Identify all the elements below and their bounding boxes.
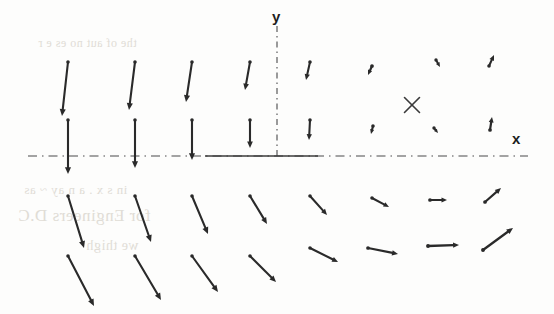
vector-arrow xyxy=(247,118,253,148)
axes-group xyxy=(28,26,528,156)
vector-arrow xyxy=(132,118,138,168)
x-axis-label: x xyxy=(512,130,521,147)
vector-arrow xyxy=(432,126,438,133)
saddle-point-cross xyxy=(405,98,420,113)
vector-field-figure: xy xyxy=(0,0,554,314)
vector-arrow xyxy=(434,58,440,67)
vector-arrow xyxy=(370,196,389,207)
vector-arrow xyxy=(248,254,276,282)
vector-arrow xyxy=(305,60,312,80)
vector-arrow xyxy=(66,194,85,248)
vector-arrow xyxy=(426,243,459,248)
vector-arrow xyxy=(487,55,494,68)
vector-arrow xyxy=(60,60,70,116)
vector-arrow xyxy=(66,254,94,306)
vector-arrow xyxy=(483,188,501,204)
vector-arrow xyxy=(243,60,251,90)
vector-arrow xyxy=(428,198,447,203)
vector-arrow xyxy=(190,194,208,234)
vector-arrow xyxy=(133,194,151,242)
vector-arrow xyxy=(127,60,137,110)
vector-arrow xyxy=(133,254,161,300)
y-axis-label: y xyxy=(272,8,281,25)
figure-page: the of aut no es e r in s x . a n ay ~ a… xyxy=(0,0,554,314)
vector-arrow xyxy=(307,118,312,140)
vector-arrow xyxy=(368,64,374,75)
vector-arrow xyxy=(488,117,493,132)
vector-arrow xyxy=(190,254,218,292)
vector-arrow xyxy=(184,60,194,102)
vector-arrow xyxy=(65,118,71,174)
vector-arrow xyxy=(308,246,338,262)
vector-arrow xyxy=(366,246,398,255)
vector-arrow xyxy=(189,118,195,160)
vector-arrow xyxy=(481,228,513,252)
vector-arrow xyxy=(248,194,267,224)
vector-arrows-group xyxy=(60,55,513,306)
vector-arrow xyxy=(370,124,375,134)
vector-arrow xyxy=(308,194,327,215)
